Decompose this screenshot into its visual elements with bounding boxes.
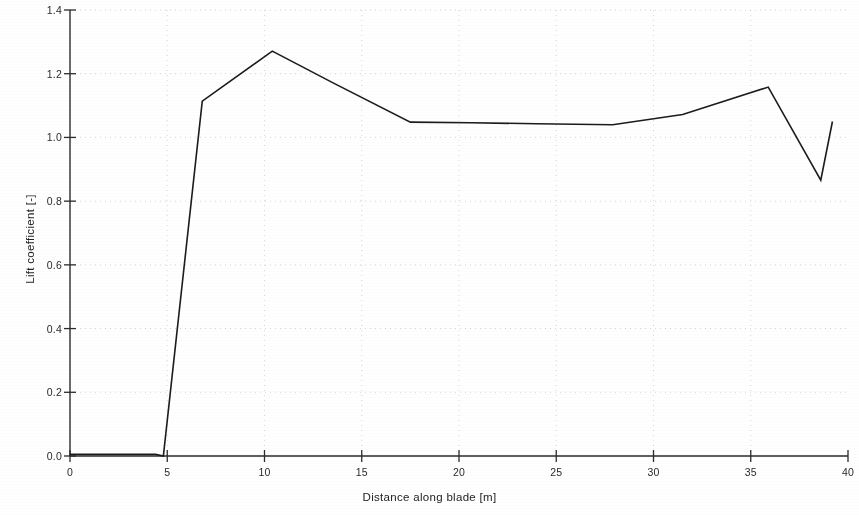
x-tick-label: 15 [356, 466, 368, 478]
x-tick-label: 10 [258, 466, 270, 478]
y-tick-label: 1.4 [28, 4, 62, 16]
x-tick-label: 40 [842, 466, 854, 478]
y-tick-label: 0.2 [28, 386, 62, 398]
axis-lines [70, 10, 848, 456]
y-tick-label: 0.0 [28, 450, 62, 462]
axis-ticks [64, 10, 848, 462]
x-axis-title: Distance along blade [m] [0, 491, 859, 503]
x-tick-label: 35 [745, 466, 757, 478]
gridlines [70, 10, 848, 456]
plot-area [0, 0, 859, 515]
x-tick-label: 0 [67, 466, 73, 478]
x-tick-label: 20 [453, 466, 465, 478]
x-tick-label: 5 [164, 466, 170, 478]
x-tick-label: 25 [550, 466, 562, 478]
x-tick-label: 30 [647, 466, 659, 478]
y-tick-label: 1.2 [28, 68, 62, 80]
data-series-group [70, 51, 832, 456]
data-line-0 [70, 51, 832, 456]
y-axis-title: Lift coefficient [-] [24, 129, 36, 349]
chart-figure: 0.00.20.40.60.81.01.21.4 051015202530354… [0, 0, 859, 515]
